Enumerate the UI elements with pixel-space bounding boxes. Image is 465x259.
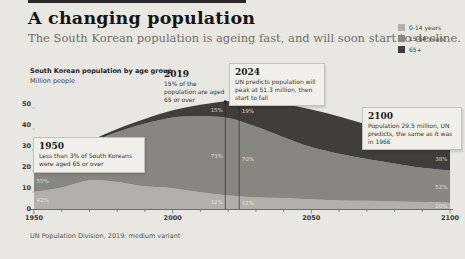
x-tick-label: 2100 (441, 214, 460, 222)
share-label: 38% (435, 156, 447, 162)
share-label: 70% (242, 156, 254, 162)
share-label: 19% (242, 108, 254, 114)
chart-card: A changing population The South Korean p… (0, 0, 465, 259)
chart-header: South Korean population by age group Mil… (30, 67, 172, 85)
share-label: 52% (435, 184, 447, 190)
share-label: 15% (211, 107, 223, 113)
callout-2024-text: UN predicts population will peak at 51.3… (235, 78, 319, 101)
callout-1950: 1950 Less than 3% of South Koreans were … (33, 137, 145, 173)
callout-2024-year: 2024 (235, 67, 319, 77)
callout-1950-text: Less than 3% of South Koreans were aged … (39, 152, 139, 168)
callout-2024: 2024 UN predicts population will peak at… (229, 63, 325, 106)
share-label: 73% (211, 153, 223, 159)
y-tick-label: 20 (22, 163, 32, 171)
y-tick-label: 0 (26, 205, 31, 213)
share-label: 42% (37, 197, 49, 203)
callout-1950-year: 1950 (39, 141, 139, 151)
share-label: 11% (242, 200, 254, 206)
x-tick-label: 1950 (25, 214, 44, 222)
y-tick-label: 10 (22, 184, 32, 192)
chart-header-title: South Korean population by age group (30, 67, 172, 75)
y-tick-label: 40 (22, 121, 32, 129)
share-label: 55% (37, 178, 49, 184)
callout-2100-year: 2100 (368, 111, 456, 121)
callout-2019-text: 15% of the population are aged 65 or ove… (164, 80, 226, 103)
share-label: 12% (211, 199, 223, 205)
chart-header-units: Million people (30, 77, 172, 85)
callout-2019-year: 2019 (164, 69, 226, 79)
y-tick-label: 30 (22, 142, 32, 150)
share-label: 10% (435, 203, 447, 209)
source-note: UN Population Division, 2019: medium var… (30, 232, 180, 240)
x-tick-label: 2000 (164, 214, 183, 222)
callout-2100-text: Population 29.5 million, UN predicts, th… (368, 122, 456, 145)
x-tick-label: 2050 (302, 214, 321, 222)
y-tick-label: 50 (22, 100, 32, 108)
callout-2100: 2100 Population 29.5 million, UN predict… (362, 107, 462, 150)
